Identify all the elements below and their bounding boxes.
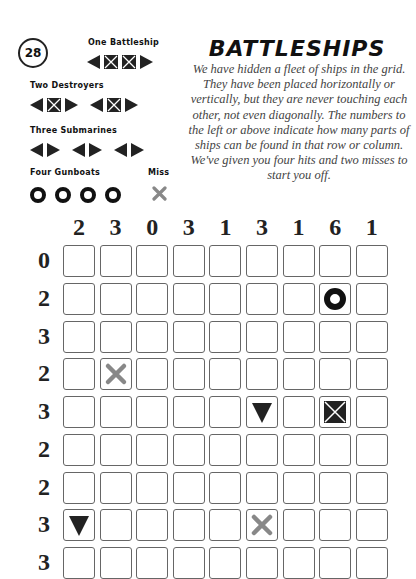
grid-cell[interactable] — [283, 358, 315, 390]
grid-cell[interactable] — [356, 434, 388, 466]
grid-cell[interactable] — [319, 283, 351, 315]
grid-cell[interactable] — [63, 396, 95, 428]
grid-cell[interactable] — [319, 321, 351, 353]
row-clue: 3 — [34, 549, 54, 576]
page-number: 28 — [25, 46, 42, 60]
row-clue: 2 — [34, 474, 54, 501]
grid-cell[interactable] — [173, 472, 205, 504]
grid-cell[interactable] — [209, 509, 241, 541]
grid-cell[interactable] — [63, 472, 95, 504]
grid-cell[interactable] — [283, 472, 315, 504]
grid-cell[interactable] — [209, 321, 241, 353]
grid-cell[interactable] — [283, 434, 315, 466]
grid-cell[interactable] — [246, 245, 278, 277]
grid-cell[interactable] — [356, 321, 388, 353]
grid-cell[interactable] — [136, 245, 168, 277]
grid-cell[interactable] — [100, 245, 132, 277]
column-clue: 6 — [318, 214, 352, 241]
grid-cell[interactable] — [319, 434, 351, 466]
grid-cell[interactable] — [246, 472, 278, 504]
grid-cell[interactable] — [356, 509, 388, 541]
grid-cell[interactable] — [356, 283, 388, 315]
grid-cell[interactable] — [136, 283, 168, 315]
grid-cell[interactable] — [173, 283, 205, 315]
grid-cell[interactable] — [100, 434, 132, 466]
grid-cell[interactable] — [283, 547, 315, 579]
gunboat-icon — [323, 287, 347, 311]
grid-cell[interactable] — [100, 358, 132, 390]
grid-cell[interactable] — [63, 547, 95, 579]
grid-cell[interactable] — [100, 321, 132, 353]
grid-cell[interactable] — [246, 434, 278, 466]
row-clue: 3 — [34, 323, 54, 350]
grid-cell[interactable] — [356, 245, 388, 277]
grid-cell[interactable] — [63, 245, 95, 277]
grid-cell[interactable] — [319, 245, 351, 277]
grid-cell[interactable] — [100, 396, 132, 428]
grid-cell[interactable] — [173, 396, 205, 428]
grid-cell[interactable] — [356, 358, 388, 390]
column-clue: 3 — [99, 214, 133, 241]
grid-cell[interactable] — [209, 245, 241, 277]
grid-cell[interactable] — [173, 434, 205, 466]
column-clue: 1 — [355, 214, 389, 241]
miss-icon — [152, 186, 167, 205]
grid-cell[interactable] — [173, 509, 205, 541]
grid-cell[interactable] — [209, 396, 241, 428]
grid-cell[interactable] — [63, 283, 95, 315]
gunboats-label: Four Gunboats — [30, 168, 100, 177]
grid-cell[interactable] — [246, 321, 278, 353]
grid-cell[interactable] — [209, 547, 241, 579]
grid-cell[interactable] — [283, 396, 315, 428]
grid-cell[interactable] — [209, 283, 241, 315]
grid-cell[interactable] — [100, 509, 132, 541]
row-clue: 2 — [34, 436, 54, 463]
grid-cell[interactable] — [356, 472, 388, 504]
grid-cell[interactable] — [136, 509, 168, 541]
miss-label: Miss — [148, 168, 169, 177]
destroyers-label: Two Destroyers — [30, 81, 104, 90]
grid-cell[interactable] — [173, 547, 205, 579]
grid-cell[interactable] — [246, 358, 278, 390]
grid-cell[interactable] — [63, 358, 95, 390]
grid-cell[interactable] — [173, 245, 205, 277]
grid-cell[interactable] — [63, 321, 95, 353]
grid-cell[interactable] — [136, 472, 168, 504]
grid-cell[interactable] — [63, 509, 95, 541]
grid-cell[interactable] — [209, 472, 241, 504]
row-clue: 3 — [34, 398, 54, 425]
grid-cell[interactable] — [319, 472, 351, 504]
grid-cell[interactable] — [246, 509, 278, 541]
miss-icon — [250, 513, 274, 537]
grid-cell[interactable] — [100, 547, 132, 579]
grid-cell[interactable] — [63, 434, 95, 466]
grid-cell[interactable] — [136, 396, 168, 428]
grid-cell[interactable] — [136, 547, 168, 579]
grid-cell[interactable] — [319, 358, 351, 390]
grid-cell[interactable] — [209, 358, 241, 390]
grid-cell[interactable] — [246, 396, 278, 428]
submarines-label: Three Submarines — [30, 126, 117, 135]
grid-cell[interactable] — [283, 509, 315, 541]
grid-cell[interactable] — [319, 509, 351, 541]
grid-cell[interactable] — [209, 434, 241, 466]
grid-cell[interactable] — [100, 472, 132, 504]
grid-cell[interactable] — [246, 283, 278, 315]
grid-cell[interactable] — [136, 358, 168, 390]
grid-cell[interactable] — [283, 283, 315, 315]
grid-cell[interactable] — [246, 547, 278, 579]
grid-cell[interactable] — [283, 321, 315, 353]
grid-cell[interactable] — [136, 321, 168, 353]
grid-cell[interactable] — [173, 321, 205, 353]
grid-cell[interactable] — [319, 547, 351, 579]
grid-cell[interactable] — [173, 358, 205, 390]
ship-middle-icon — [323, 400, 347, 424]
grid-cell[interactable] — [100, 283, 132, 315]
grid-cell[interactable] — [136, 434, 168, 466]
grid-cell[interactable] — [283, 245, 315, 277]
grid-cell[interactable] — [356, 396, 388, 428]
grid-cell[interactable] — [356, 547, 388, 579]
column-clue: 3 — [172, 214, 206, 241]
grid-cell[interactable] — [319, 396, 351, 428]
row-clue: 2 — [34, 360, 54, 387]
